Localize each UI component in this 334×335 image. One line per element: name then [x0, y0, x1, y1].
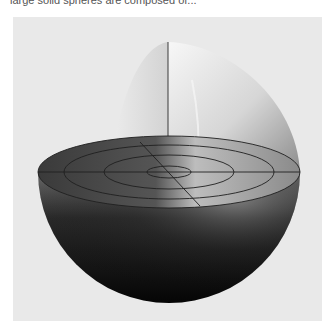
cutaway-sphere-illustration [0, 0, 334, 335]
